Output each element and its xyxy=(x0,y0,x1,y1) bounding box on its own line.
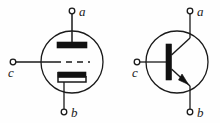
transistor-base-bar xyxy=(166,44,172,80)
transistor-terminal-label-c: c xyxy=(132,65,138,80)
tube-terminal-node-c[interactable] xyxy=(10,59,16,65)
transistor-emitter-arrowhead xyxy=(179,74,189,85)
tube-anode-plate xyxy=(57,42,87,48)
transistor-terminal-node-c[interactable] xyxy=(134,59,140,65)
transistor-terminal-label-b: b xyxy=(197,105,204,120)
transistor-terminal-label-a: a xyxy=(197,4,204,19)
schematic-symbols-figure: a c b xyxy=(0,0,220,123)
vacuum-tube-triode-symbol: a c b xyxy=(8,4,103,120)
tube-terminal-node-b[interactable] xyxy=(61,109,67,115)
transistor-terminal-node-a[interactable] xyxy=(187,8,193,14)
figure-canvas: a c b xyxy=(0,0,220,123)
tube-terminal-label-c: c xyxy=(8,65,14,80)
tube-terminal-node-a[interactable] xyxy=(69,8,75,14)
tube-terminal-label-a: a xyxy=(79,4,86,19)
tube-terminal-label-b: b xyxy=(71,105,78,120)
transistor-collector-diagonal xyxy=(172,38,191,55)
tube-cathode-bar xyxy=(58,72,86,78)
npn-transistor-symbol: a c b xyxy=(132,4,208,120)
transistor-terminal-node-b[interactable] xyxy=(187,109,193,115)
